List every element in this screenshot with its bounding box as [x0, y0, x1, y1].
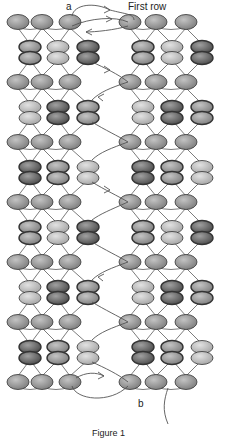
- bead: [31, 315, 53, 330]
- bead: [47, 172, 69, 185]
- thread-tail: [164, 388, 168, 424]
- bead: [31, 255, 53, 270]
- bead: [31, 375, 53, 390]
- bead: [19, 292, 41, 305]
- bead: [7, 15, 29, 30]
- bead: [132, 232, 154, 245]
- bead: [7, 135, 29, 150]
- bead: [77, 292, 99, 305]
- bead: [175, 75, 197, 90]
- bead: [31, 195, 53, 210]
- label-first-row: First row: [128, 1, 166, 12]
- bead: [47, 112, 69, 125]
- bead: [145, 195, 167, 210]
- bead: [132, 292, 154, 305]
- bead: [175, 195, 197, 210]
- bead: [47, 292, 69, 305]
- bead: [119, 375, 141, 390]
- bead: [119, 195, 141, 210]
- bead: [59, 15, 81, 30]
- bead: [191, 352, 213, 365]
- bead: [175, 255, 197, 270]
- bead: [7, 315, 29, 330]
- bead: [77, 352, 99, 365]
- bead: [47, 52, 69, 65]
- bead: [31, 15, 53, 30]
- bead: [175, 15, 197, 30]
- bead: [191, 172, 213, 185]
- bead: [77, 52, 99, 65]
- bead: [132, 52, 154, 65]
- bead: [191, 52, 213, 65]
- bead: [119, 75, 141, 90]
- bead: [161, 232, 183, 245]
- bead: [19, 232, 41, 245]
- bead: [145, 15, 167, 30]
- bead: [175, 315, 197, 330]
- bead: [31, 75, 53, 90]
- bead: [31, 135, 53, 150]
- bead: [132, 112, 154, 125]
- bead: [7, 255, 29, 270]
- bead: [7, 75, 29, 90]
- bead: [145, 255, 167, 270]
- bead: [77, 112, 99, 125]
- bead: [145, 75, 167, 90]
- bead: [119, 255, 141, 270]
- figure-caption: Figure 1: [92, 428, 125, 438]
- bead: [19, 112, 41, 125]
- bead: [47, 232, 69, 245]
- bead: [7, 195, 29, 210]
- bead: [145, 135, 167, 150]
- bead: [47, 352, 69, 365]
- bead: [161, 112, 183, 125]
- bead: [59, 195, 81, 210]
- bead: [119, 315, 141, 330]
- bead: [59, 315, 81, 330]
- bead: [191, 292, 213, 305]
- bead: [145, 375, 167, 390]
- bead: [175, 375, 197, 390]
- bead: [132, 172, 154, 185]
- bead: [77, 232, 99, 245]
- bead: [161, 352, 183, 365]
- bead: [161, 292, 183, 305]
- bead: [59, 75, 81, 90]
- bead: [59, 255, 81, 270]
- bead: [7, 375, 29, 390]
- bead: [191, 232, 213, 245]
- label-b: b: [138, 398, 144, 409]
- bead: [119, 135, 141, 150]
- label-a: a: [66, 1, 72, 12]
- bead: [59, 135, 81, 150]
- bead: [19, 172, 41, 185]
- bead: [191, 112, 213, 125]
- bead: [77, 172, 99, 185]
- bead: [145, 315, 167, 330]
- bead: [132, 352, 154, 365]
- bead: [19, 52, 41, 65]
- bead: [161, 52, 183, 65]
- bead: [175, 135, 197, 150]
- bead: [19, 352, 41, 365]
- bead: [161, 172, 183, 185]
